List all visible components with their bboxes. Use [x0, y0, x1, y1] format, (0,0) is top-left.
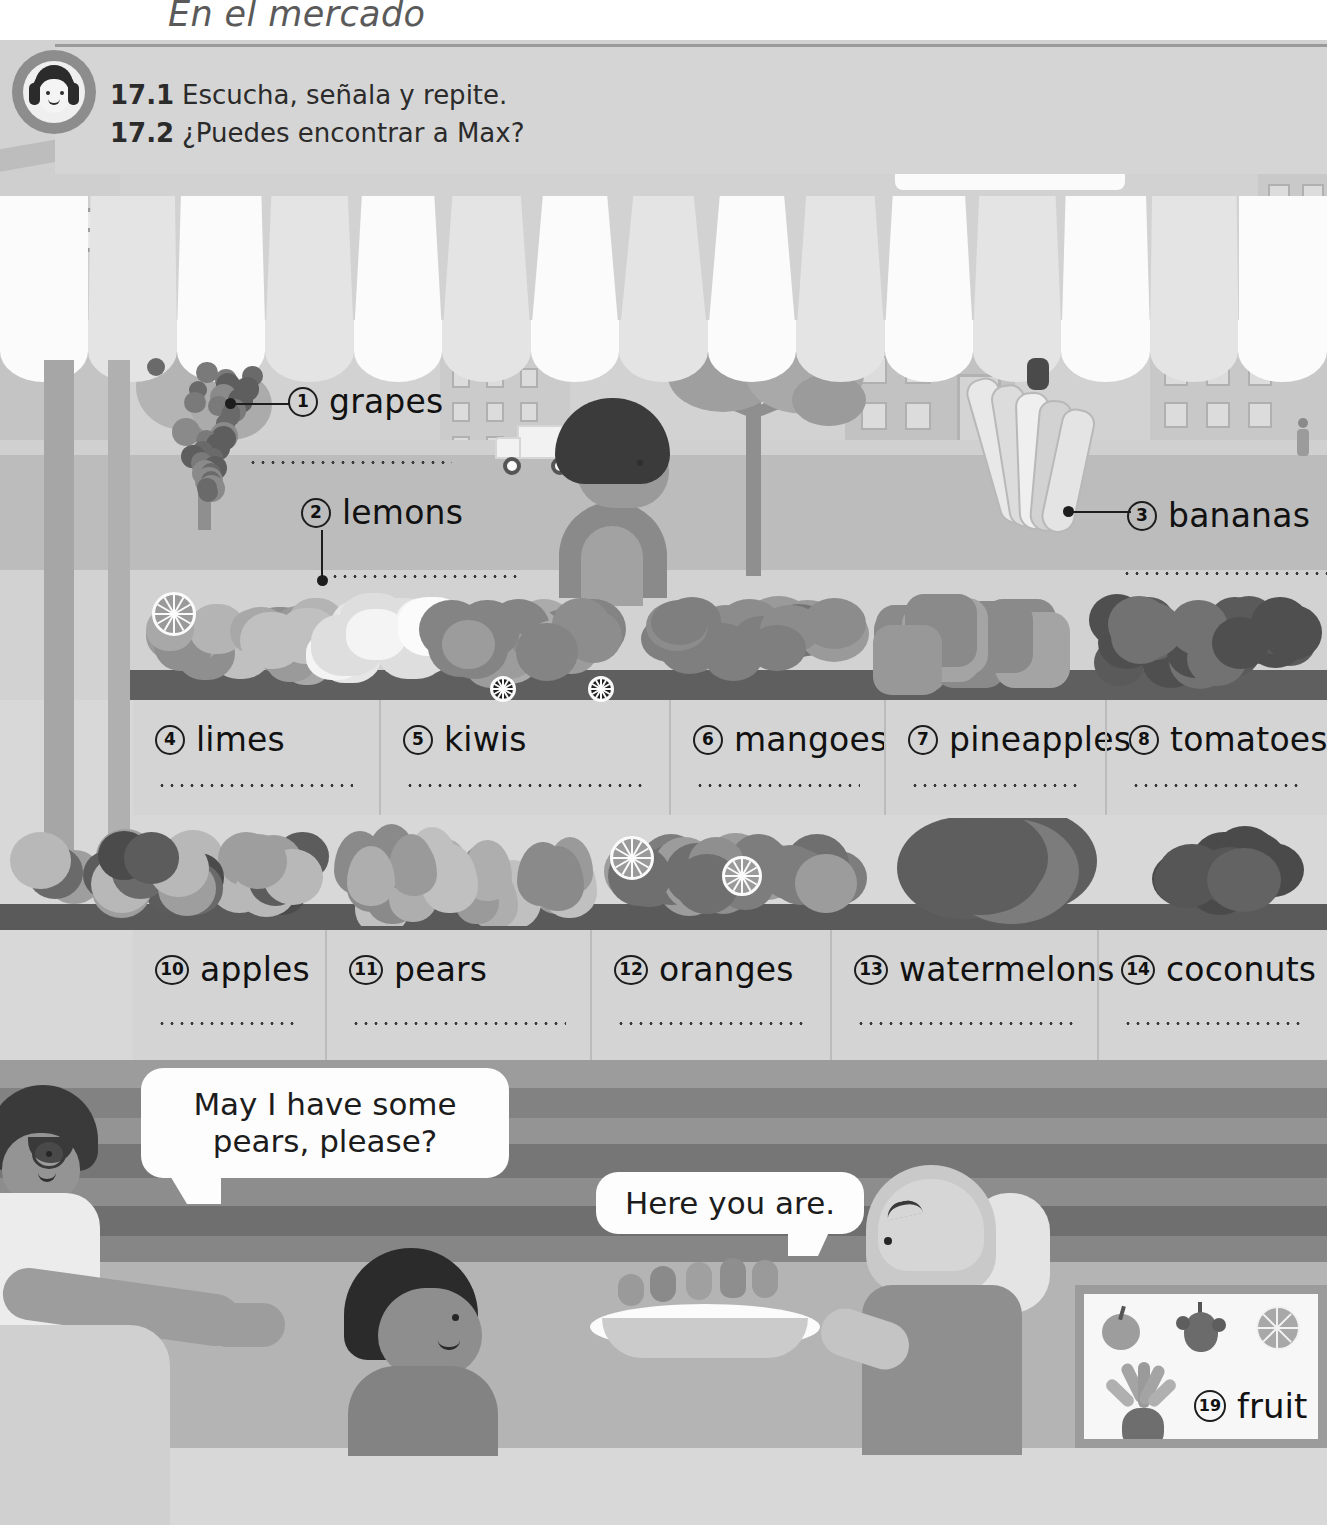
shelf-label-limes: 4limes — [155, 720, 285, 759]
shelf-number-13: 13 — [854, 955, 888, 985]
fruit-poster[interactable]: 19 fruit — [1075, 1285, 1327, 1448]
banana-stem — [1027, 358, 1049, 390]
shelf-cell-tomatoes[interactable]: 8tomatoes — [1105, 700, 1327, 815]
writein-line-coconuts[interactable] — [1123, 1022, 1303, 1025]
pear-pile — [330, 822, 600, 926]
shelf-label-pears: 11pears — [349, 950, 487, 989]
pineapple-fruit — [873, 625, 943, 695]
child-figure — [330, 1248, 550, 1448]
poster-number-19: 19 — [1194, 1390, 1226, 1422]
instruction-text-1: Escucha, señala y repite. — [182, 76, 507, 114]
callout-label-grapes: grapes — [329, 382, 443, 421]
shelf-cell-mangoes[interactable]: 6mangoes — [669, 700, 884, 815]
callout-label-lemons: lemons — [342, 493, 463, 532]
instruction-list: 17.1 Escucha, señala y repite. 17.2 ¿Pue… — [110, 76, 524, 152]
watermelon-fruit — [918, 818, 1042, 915]
shelf-label-text-pineapples: pineapples — [949, 720, 1131, 759]
shelf-label-text-watermelons: watermelons — [899, 950, 1115, 989]
writein-line-pineapples[interactable] — [910, 784, 1081, 787]
callout-grapes[interactable]: 1 grapes — [288, 382, 443, 421]
shelf-number-12: 12 — [614, 955, 648, 985]
citrus-slice-icon — [610, 836, 654, 880]
shelf-label-apples: 10apples — [155, 950, 310, 989]
apple-pile — [0, 826, 330, 926]
shelf-cell-limes[interactable]: 4limes — [133, 700, 379, 815]
apple-fruit — [229, 834, 287, 889]
tomato-pile — [1080, 590, 1327, 698]
citrus-slice-icon — [152, 592, 196, 636]
instruction-row-2: 17.2 ¿Puedes encontrar a Max? — [110, 114, 524, 152]
awning-stripe — [885, 196, 973, 338]
shelf-label-mangoes: 6mangoes — [693, 720, 887, 759]
callout-number-2: 2 — [301, 498, 331, 528]
shelf-number-10: 10 — [155, 955, 189, 985]
writein-line-limes[interactable] — [157, 784, 353, 787]
callout-bananas[interactable]: 3 bananas — [1127, 496, 1310, 535]
pineapple-icon — [1098, 1362, 1182, 1448]
shelf-cell-coconuts[interactable]: 14coconuts — [1097, 930, 1327, 1060]
shelf-cell-pears[interactable]: 11pears — [325, 930, 590, 1060]
writein-line-pears[interactable] — [351, 1022, 566, 1025]
grapes-icon — [1172, 1302, 1230, 1356]
poster-pineapple-row — [1098, 1362, 1182, 1448]
awning-scallop — [1238, 320, 1326, 382]
awning-scallop — [708, 320, 796, 382]
vendor-figure — [840, 1165, 1100, 1448]
callout-number-3: 3 — [1127, 501, 1157, 531]
awning-scallop — [885, 320, 973, 382]
audio-listen-icon[interactable] — [12, 50, 96, 134]
poster-icon-row — [1098, 1302, 1304, 1356]
citrus-slice-icon — [588, 676, 614, 702]
shelf-label-text-apples: apples — [200, 950, 310, 989]
awning-stripe — [1150, 196, 1238, 338]
shelf-label-text-limes: limes — [196, 720, 285, 759]
instruction-text-2: ¿Puedes encontrar a Max? — [182, 114, 524, 152]
writein-line-bananas[interactable] — [1122, 572, 1327, 575]
shelf-label-oranges: 12oranges — [614, 950, 794, 989]
citrus-slice-icon — [722, 856, 762, 896]
grape-bunch — [155, 350, 295, 500]
writein-line-oranges[interactable] — [616, 1022, 806, 1025]
writein-line-mangoes[interactable] — [695, 784, 860, 787]
callout-lemons[interactable]: 2 lemons — [301, 493, 463, 532]
awning-stripe — [1062, 196, 1150, 338]
instruction-number-1: 17.1 — [110, 76, 182, 114]
writein-line-apples[interactable] — [157, 1022, 299, 1025]
writein-line-tomatoes[interactable] — [1131, 784, 1303, 787]
watermelon-pile — [880, 818, 1150, 928]
pineapple-pile — [865, 586, 1075, 700]
awning-scallop — [619, 320, 707, 382]
writein-line-kiwis[interactable] — [405, 784, 645, 787]
apple-fruit — [124, 832, 179, 883]
awning-stripe — [531, 196, 619, 338]
awning-stripe — [265, 196, 353, 338]
customer-figure — [0, 1085, 310, 1448]
shelf-cell-oranges[interactable]: 12oranges — [590, 930, 830, 1060]
awning-scallop — [796, 320, 884, 382]
shelf-number-4: 4 — [155, 725, 185, 755]
shelf-cell-watermelons[interactable]: 13watermelons — [830, 930, 1097, 1060]
writein-line-watermelons[interactable] — [856, 1022, 1073, 1025]
shelf-number-5: 5 — [403, 725, 433, 755]
shelf-cell-kiwis[interactable]: 5kiwis — [379, 700, 669, 815]
mango-pile — [620, 594, 870, 698]
coconut-pile — [1145, 822, 1327, 928]
shelf-cell-apples[interactable]: 10apples — [133, 930, 325, 1060]
shelf-label-text-kiwis: kiwis — [444, 720, 527, 759]
shelf-label-kiwis: 5kiwis — [403, 720, 527, 759]
awning-stripe — [1239, 196, 1327, 338]
shelf-cell-pineapples[interactable]: 7pineapples — [884, 700, 1105, 815]
shelf-number-11: 11 — [349, 955, 383, 985]
lime-fruit — [442, 620, 495, 669]
apple-fruit — [10, 832, 71, 889]
apple-icon — [1098, 1306, 1144, 1352]
awning-stripe — [973, 196, 1061, 338]
writein-line-grapes[interactable] — [248, 461, 452, 464]
coconut-fruit — [1207, 848, 1281, 912]
mango-fruit — [651, 600, 708, 645]
awning-stripe — [442, 196, 530, 338]
mango-fruit — [748, 625, 806, 671]
writein-line-lemons[interactable] — [330, 575, 522, 578]
shelf-number-14: 14 — [1121, 955, 1155, 985]
awning-scallop — [531, 320, 619, 382]
